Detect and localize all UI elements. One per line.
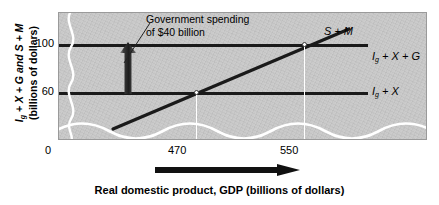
- y-tick-60: 60: [12, 85, 54, 97]
- x-tick-550: 550: [280, 144, 298, 156]
- x-axis-break-squiggle: [59, 117, 427, 140]
- y-axis-label-ig: Ig: [13, 115, 25, 122]
- y-axis-label-ig-subscript: g: [19, 115, 26, 119]
- series-label-ig-2-subscript: g: [375, 91, 379, 98]
- plot-area: Government spending of $40 billion S + M…: [58, 12, 427, 140]
- series-label-ig-plus-x: Ig + X: [372, 85, 399, 97]
- series-label-ig-plus-x-plus-g: Ig + X + G: [372, 50, 420, 62]
- annotation-government-spending: Government spending of $40 billion: [146, 13, 249, 39]
- chart-figure: Ig + X + G and S + M (billions of dollar…: [0, 0, 439, 205]
- series-label-ig-1: Ig: [372, 50, 379, 62]
- x-tick-470: 470: [168, 144, 186, 156]
- y-tick-100: 100: [12, 37, 54, 49]
- series-label-ig-2-rest: + X: [379, 85, 399, 97]
- series-label-s-plus-m: S + M: [324, 25, 353, 37]
- series-label-ig-1-rest: + X + G: [379, 50, 420, 62]
- x-tick-0: 0: [45, 144, 51, 156]
- annotation-line2: of $40 billion: [146, 26, 249, 39]
- x-axis-title: Real domestic product, GDP (billions of …: [0, 184, 439, 196]
- series-label-ig-2: Ig: [372, 85, 379, 97]
- equilibrium-dot-470: [194, 90, 199, 95]
- y-axis-label: Ig + X + G and S + M (billions of dollar…: [13, 0, 39, 148]
- annotation-line1: Government spending: [146, 13, 249, 26]
- series-label-ig-1-subscript: g: [375, 56, 379, 63]
- x-axis-direction-arrow: [155, 164, 300, 176]
- equilibrium-dot-550: [302, 42, 307, 47]
